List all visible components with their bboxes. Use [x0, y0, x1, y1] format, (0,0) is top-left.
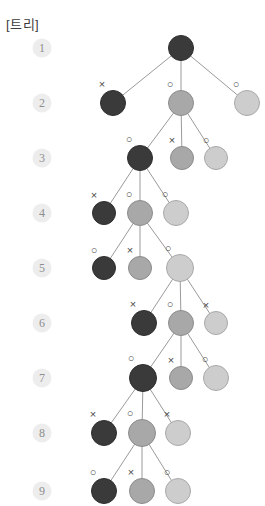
level-badge-8: 8: [33, 424, 52, 443]
cross-icon-n9b: ×: [128, 467, 134, 478]
cross-icon-n3b: ×: [169, 135, 175, 146]
circle-icon-n4c: ○: [162, 189, 169, 200]
tree-node-n3a[interactable]: [127, 145, 153, 171]
circle-icon-n4b: ○: [126, 189, 133, 200]
cross-icon-n6a: ×: [130, 299, 136, 310]
circle-icon-n9c: ○: [164, 467, 171, 478]
tree-node-n5b[interactable]: [128, 256, 152, 280]
tree-node-n6b[interactable]: [168, 310, 194, 336]
tree-node-n7b[interactable]: [169, 366, 193, 390]
level-badge-2: 2: [33, 94, 52, 113]
level-badge-5: 5: [33, 259, 52, 278]
tree-node-n6a[interactable]: [131, 310, 157, 336]
level-badge-1: 1: [33, 39, 52, 58]
cross-icon-n6c: ×: [203, 300, 209, 311]
tree-node-n8c[interactable]: [165, 420, 191, 446]
tree-node-n3c[interactable]: [204, 146, 228, 170]
level-badge-6: 6: [33, 314, 52, 333]
circle-icon-n3a: ○: [126, 134, 133, 145]
tree-node-n8a[interactable]: [91, 420, 117, 446]
circle-icon-n7a: ○: [128, 353, 135, 364]
tree-node-n9a[interactable]: [91, 478, 117, 504]
tree-diagram-canvas: [트리] 123456789 ×○○○×○×○○○×○×○×○×○×○×○×○: [0, 0, 265, 506]
tree-node-n2b[interactable]: [168, 90, 194, 116]
level-badge-4: 4: [33, 204, 52, 223]
cross-icon-n8a: ×: [90, 409, 96, 420]
tree-node-n2c[interactable]: [234, 90, 260, 116]
circle-icon-n5c: ○: [165, 243, 172, 254]
level-badge-9: 9: [33, 482, 52, 501]
cross-icon-n8c: ×: [164, 409, 170, 420]
circle-icon-n7c: ○: [202, 354, 209, 365]
circle-icon-n2b: ○: [167, 79, 174, 90]
tree-node-n4b[interactable]: [127, 200, 153, 226]
circle-icon-n8b: ○: [127, 408, 134, 419]
circle-icon-n2c: ○: [233, 79, 240, 90]
circle-icon-n5a: ○: [91, 245, 98, 256]
level-badge-3: 3: [33, 149, 52, 168]
circle-icon-n9a: ○: [90, 467, 97, 478]
tree-node-n5c[interactable]: [166, 254, 194, 282]
tree-node-n2a[interactable]: [100, 90, 126, 116]
cross-icon-n7b: ×: [168, 355, 174, 366]
tree-node-n1[interactable]: [168, 35, 194, 61]
tree-node-n4a[interactable]: [92, 201, 116, 225]
tree-node-n9c[interactable]: [165, 478, 191, 504]
tree-node-n3b[interactable]: [170, 146, 194, 170]
cross-icon-n4a: ×: [91, 190, 97, 201]
cross-icon-n5b: ×: [127, 245, 133, 256]
level-badge-7: 7: [33, 369, 52, 388]
tree-node-n6c[interactable]: [204, 311, 228, 335]
tree-node-n8b[interactable]: [128, 419, 156, 447]
circle-icon-n6b: ○: [167, 299, 174, 310]
tree-node-n7c[interactable]: [203, 365, 229, 391]
tree-node-n4c[interactable]: [163, 200, 189, 226]
cross-icon-n2a: ×: [99, 79, 105, 90]
tree-node-n7a[interactable]: [129, 364, 157, 392]
tree-node-n5a[interactable]: [92, 256, 116, 280]
circle-icon-n3c: ○: [203, 135, 210, 146]
tree-node-n9b[interactable]: [129, 478, 155, 504]
